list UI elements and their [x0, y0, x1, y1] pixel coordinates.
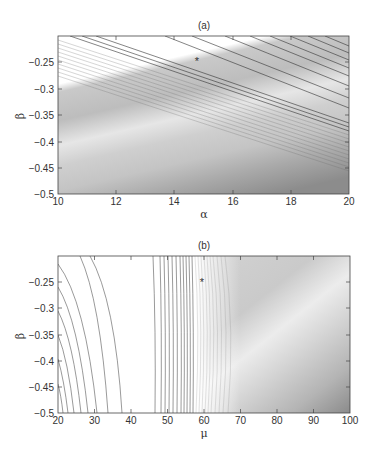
plot-a-contours	[58, 36, 349, 194]
plot-b-ytick: −0.5	[34, 408, 54, 419]
plot-b-xtick: 30	[89, 415, 101, 426]
plot-b-ytick: −0.35	[29, 330, 55, 341]
plot-a: (a)	[14, 20, 355, 221]
plot-b-xtick: 70	[235, 415, 247, 426]
plot-b-optimum-marker: *	[200, 276, 205, 288]
plot-a-ytick: −0.3	[34, 84, 54, 95]
plot-b-xtick: 100	[342, 415, 359, 426]
plot-b-title: (b)	[198, 240, 210, 251]
plot-b-ylabel: β	[14, 333, 27, 339]
plot-b: (b)	[14, 240, 359, 440]
plot-a-ytick: −0.5	[34, 189, 54, 200]
plot-a-xtick: 20	[343, 196, 355, 207]
plot-a-ytick: −0.45	[29, 163, 55, 174]
plot-a-optimum-marker: *	[195, 55, 200, 67]
plot-a-xtick: 16	[227, 196, 239, 207]
plot-a-xtick: 12	[110, 196, 122, 207]
plot-a-title: (a)	[198, 20, 210, 31]
plot-b-xtick: 80	[271, 415, 283, 426]
plot-b-ytick: −0.4	[34, 356, 54, 367]
plot-b-xtick: 20	[52, 415, 64, 426]
plot-b-ytick: −0.25	[29, 277, 55, 288]
figure: (a)	[0, 0, 376, 455]
plot-a-xlabel: α	[200, 208, 208, 221]
plot-a-xtick: 14	[168, 196, 180, 207]
plot-a-ylabel: β	[14, 113, 27, 119]
plot-b-xtick: 40	[125, 415, 137, 426]
plot-a-xtick: 18	[285, 196, 297, 207]
plot-a-xtick: 10	[52, 196, 64, 207]
plot-b-xtick: 90	[308, 415, 320, 426]
plot-b-xlabel: μ	[200, 427, 207, 440]
plot-a-ytick: −0.4	[34, 137, 54, 148]
plot-b-ytick: −0.3	[34, 303, 54, 314]
plot-b-xtick: 60	[198, 415, 210, 426]
plot-b-xtick: 50	[162, 415, 174, 426]
plot-b-ytick: −0.45	[29, 382, 55, 393]
plot-a-ytick: −0.25	[29, 57, 55, 68]
plot-a-ytick: −0.35	[29, 110, 55, 121]
